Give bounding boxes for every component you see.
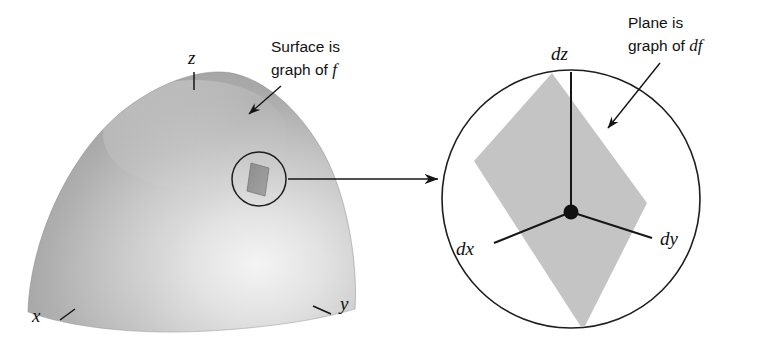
surface-callout-line1: Surface is [271,38,340,55]
axis-label-dy: dy [660,228,679,249]
differential-figure: z x y Surface is graph of f [0,0,771,342]
plane-callout-prefix: graph of [628,37,689,54]
patch-parallelogram [247,163,269,196]
plane-callout-line2: graph of df [628,36,705,55]
plane-callout-math: df [689,36,705,55]
axis-label-y: y [338,293,349,314]
tangent-plane-inset-group: dz dx dy Plane is graph of df [442,14,705,330]
axis-label-x: x [31,305,41,326]
axis-label-z: z [187,47,196,68]
figure-canvas: z x y Surface is graph of f [0,0,771,342]
plane-callout-line1: Plane is [628,14,683,31]
surface-callout: Surface is graph of f [249,38,340,114]
origin-dot [564,205,579,220]
axis-label-dx: dx [456,238,475,259]
surface-callout-math: f [332,60,339,79]
surface-dome-group: z x y Surface is graph of f [28,38,355,332]
surface-callout-line2: graph of f [271,60,339,79]
axis-label-dz: dz [551,43,569,64]
surface-callout-prefix: graph of [271,61,332,78]
